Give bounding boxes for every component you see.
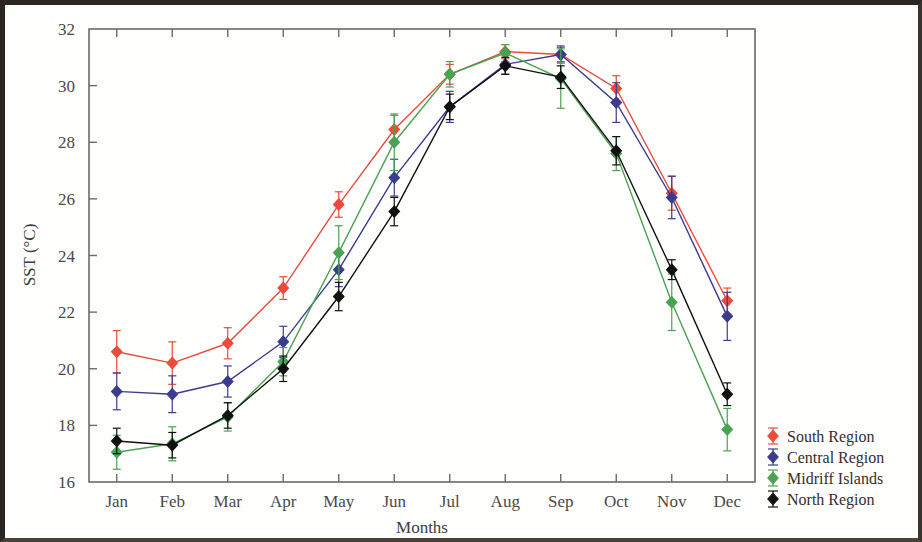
legend-entry-north-region[interactable]: North Region [768, 491, 875, 509]
legend-marker [768, 472, 778, 483]
legend-marker [768, 430, 778, 441]
y-axis-ticks: 161820222426283032 [58, 20, 97, 492]
sst-line-chart: 161820222426283032 JanFebMarAprMayJunJul… [5, 5, 922, 542]
series-midriff-islands [112, 45, 733, 470]
data-point-marker[interactable] [722, 424, 732, 435]
data-point-marker[interactable] [112, 346, 122, 357]
figure-canvas: 161820222426283032 JanFebMarAprMayJunJul… [5, 5, 918, 538]
x-tick-label-sep: Sep [548, 492, 574, 511]
plot-frame [89, 29, 755, 482]
data-point-marker[interactable] [722, 389, 732, 400]
x-tick-label-jan: Jan [105, 492, 128, 511]
legend-entry-midriff-islands[interactable]: Midriff Islands [768, 470, 883, 487]
x-tick-label-dec: Dec [714, 492, 742, 511]
y-tick-label: 24 [58, 247, 76, 266]
y-tick-label: 26 [58, 190, 75, 209]
y-tick-label: 18 [58, 416, 75, 435]
data-point-marker[interactable] [167, 357, 177, 368]
x-axis-title: Months [396, 518, 448, 537]
y-axis-title: SST (°C) [20, 224, 39, 287]
data-point-marker[interactable] [167, 389, 177, 400]
series-north-region [112, 57, 733, 458]
x-tick-label-may: May [323, 492, 355, 511]
data-point-marker[interactable] [722, 311, 732, 322]
legend-label: Central Region [787, 449, 884, 467]
data-point-marker[interactable] [112, 386, 122, 397]
y-tick-label: 28 [58, 133, 75, 152]
x-tick-label-aug: Aug [491, 492, 521, 511]
series-line [117, 54, 728, 394]
x-tick-label-jul: Jul [440, 492, 460, 511]
data-point-marker[interactable] [667, 297, 677, 308]
x-tick-label-apr: Apr [270, 492, 297, 511]
data-point-marker[interactable] [334, 247, 344, 258]
series-line [117, 66, 728, 445]
data-point-marker[interactable] [389, 206, 399, 217]
y-tick-label: 16 [58, 473, 75, 492]
y-tick-label: 32 [58, 20, 75, 39]
x-tick-label-oct: Oct [604, 492, 629, 511]
chart-legend: South RegionCentral RegionMidriff Island… [768, 428, 885, 509]
legend-label: North Region [787, 491, 875, 509]
y-tick-label: 30 [58, 77, 75, 96]
data-point-marker[interactable] [223, 376, 233, 387]
x-tick-label-mar: Mar [214, 492, 243, 511]
series-line [117, 53, 728, 452]
legend-label: Midriff Islands [787, 470, 883, 487]
legend-entry-central-region[interactable]: Central Region [768, 449, 885, 467]
legend-marker [768, 493, 778, 504]
data-point-marker[interactable] [112, 435, 122, 446]
legend-label: South Region [787, 428, 875, 446]
figure-container: 161820222426283032 JanFebMarAprMayJunJul… [0, 0, 922, 542]
data-series-layer [112, 45, 733, 470]
legend-marker [768, 451, 778, 462]
x-tick-label-nov: Nov [657, 492, 687, 511]
y-tick-label: 20 [58, 360, 75, 379]
axes-layer [89, 29, 755, 482]
x-tick-label-jun: Jun [382, 492, 406, 511]
y-tick-label: 22 [58, 303, 75, 322]
legend-entry-south-region[interactable]: South Region [768, 428, 875, 446]
x-tick-label-feb: Feb [160, 492, 186, 511]
